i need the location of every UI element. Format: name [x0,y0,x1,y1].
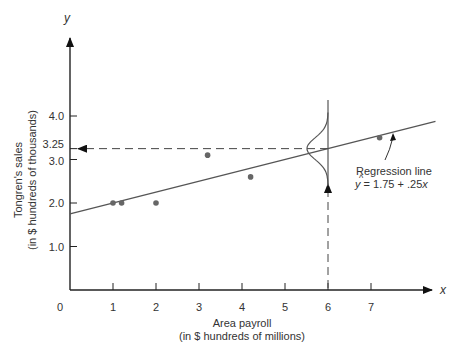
x-tick-group: 1234567 [110,283,374,313]
regression-equation: y = 1.75 + .25x [354,178,428,190]
regression-line-label: Regression line [356,165,432,177]
annotation-arrowhead-icon [390,133,396,141]
x-tick-label: 7 [368,301,374,313]
y-tick-label: 2.0 [49,197,64,209]
x-axis-symbol: x [439,283,447,297]
data-point [205,152,211,158]
x-tick-label: 1 [110,301,116,313]
y-tick-label: 3.0 [49,155,64,167]
y-axis-symbol: y [63,11,71,25]
x-tick-label: 6 [325,301,331,313]
data-point [248,174,254,180]
x-axis-label: Area payroll [213,317,272,329]
data-point [110,200,116,206]
y-axis-label: Tongren's sales [12,141,24,218]
y-tick-label: 1.0 [49,241,64,253]
y-tick-label: 3.25 [43,138,64,150]
regression-chart: y x 0 1234567 1.02.03.03.254.0 Area payr… [0,0,457,347]
data-point [377,135,383,141]
x-tick-label: 4 [239,301,245,313]
origin-label: 0 [57,301,63,313]
x-tick-label: 3 [196,301,202,313]
y-tick-label: 4.0 [49,110,64,122]
x-axis-label-units: (in $ hundreds of millions) [179,330,305,342]
y-axis-label-units: (in $ hundreds of thousands) [26,110,38,250]
equation-x: x [421,178,428,190]
data-point [119,200,125,206]
y-tick-group: 1.02.03.03.254.0 [43,110,77,253]
x-tick-label: 5 [282,301,288,313]
data-point [153,200,159,206]
x-tick-label: 2 [153,301,159,313]
equation-body: = 1.75 + .25 [361,178,423,190]
